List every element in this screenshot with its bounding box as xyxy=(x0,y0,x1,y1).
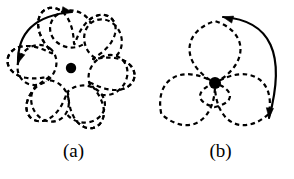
panel-a-drawing xyxy=(0,0,147,140)
panel-caption-a: (a) xyxy=(0,139,147,163)
panel-caption-b: (b) xyxy=(147,139,294,163)
figure-root: (a) (b) xyxy=(0,0,294,179)
center-dot-b xyxy=(209,77,221,89)
rose-curve-b xyxy=(160,21,270,125)
panel-b: (b) xyxy=(147,0,294,179)
panel-b-drawing xyxy=(147,0,294,140)
panel-a: (a) xyxy=(0,0,147,179)
rotation-arrow-b xyxy=(223,16,276,118)
center-dot-a xyxy=(66,63,76,73)
